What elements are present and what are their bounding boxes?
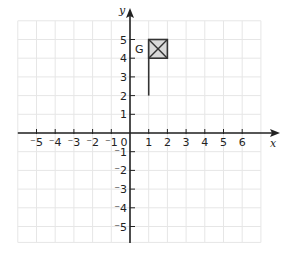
y-tick-label: 1: [120, 108, 127, 121]
y-tick-label: 4: [120, 52, 127, 65]
y-tick-label: ⁻2: [114, 164, 127, 177]
coordinate-grid: ⁻5⁻4⁻3⁻2⁻1012345654321⁻1⁻2⁻3⁻4⁻5 x y G: [0, 0, 292, 256]
y-axis-label: y: [118, 4, 126, 17]
flag-label: G: [135, 43, 144, 56]
y-tick-label: 3: [120, 71, 127, 84]
x-tick-label: 6: [239, 136, 246, 149]
y-tick-label: ⁻4: [114, 202, 127, 215]
y-tick-label: 2: [120, 90, 127, 103]
x-tick-label: 1: [145, 136, 152, 149]
x-tick-label: 4: [201, 136, 208, 149]
y-tick-label: ⁻5: [114, 221, 127, 234]
x-tick-label: ⁻3: [67, 136, 80, 149]
y-tick-label: ⁻3: [114, 183, 127, 196]
x-tick-label: 3: [183, 136, 190, 149]
x-axis-label: x: [270, 137, 277, 150]
y-tick-label: 5: [120, 34, 127, 47]
y-tick-label: ⁻1: [114, 146, 127, 159]
flag-shape: [149, 40, 168, 96]
x-tick-label: ⁻4: [49, 136, 62, 149]
x-tick-label: 5: [220, 136, 227, 149]
x-tick-label: 2: [164, 136, 171, 149]
x-tick-label: ⁻2: [86, 136, 99, 149]
x-tick-label: ⁻5: [30, 136, 43, 149]
